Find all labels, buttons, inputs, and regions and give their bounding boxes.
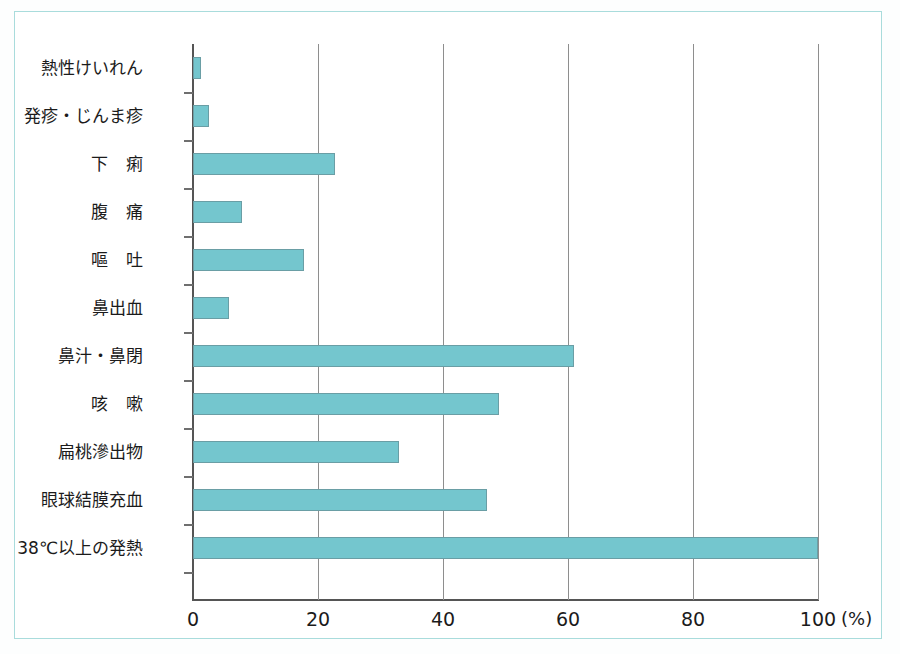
bar [193,57,201,79]
y-axis-tick [184,572,193,574]
category-label: 38℃以上の発熱 [0,524,143,572]
page-background: 熱性けいれん発疹・じんま疹下痢腹痛嘔吐鼻出血鼻汁・鼻閉咳嗽扁桃滲出物眼球結膜充血… [0,0,900,654]
category-label: 熱性けいれん [0,44,143,92]
y-axis-tick [184,188,193,190]
category-label: 発疹・じんま疹 [0,92,143,140]
y-axis-tick [184,236,193,238]
gridline-100 [818,44,819,600]
bar-row [193,284,818,332]
category-label: 咳嗽 [0,380,161,428]
bar-chart: 熱性けいれん発疹・じんま疹下痢腹痛嘔吐鼻出血鼻汁・鼻閉咳嗽扁桃滲出物眼球結膜充血… [15,12,881,638]
bar-row [193,428,818,476]
bar-row [193,476,818,524]
bar [193,441,399,463]
bar [193,489,487,511]
x-tick-label: 40 [431,608,455,630]
bar [193,393,499,415]
x-tick-label: 0 [187,608,199,630]
y-axis-tick [184,524,193,526]
y-axis-tick [184,140,193,142]
bar-row [193,332,818,380]
y-axis-tick [184,284,193,286]
figure-frame: 熱性けいれん発疹・じんま疹下痢腹痛嘔吐鼻出血鼻汁・鼻閉咳嗽扁桃滲出物眼球結膜充血… [14,11,882,639]
bar-row [193,44,818,92]
bar-row [193,236,818,284]
bar [193,105,209,127]
bar [193,201,242,223]
x-tick-label: 100 [800,608,836,630]
bar-row [193,380,818,428]
bar-row [193,524,818,572]
x-axis-unit-label: (%) [841,608,872,629]
bar-row [193,92,818,140]
y-axis-tick [184,476,193,478]
bar [193,297,229,319]
category-label: 腹痛 [0,188,161,236]
plot-area [193,44,818,600]
x-tick-label: 60 [556,608,580,630]
category-label: 眼球結膜充血 [0,476,143,524]
category-label: 下痢 [0,140,161,188]
x-tick-label: 20 [306,608,330,630]
category-label: 鼻出血 [0,284,143,332]
y-axis-tick [184,428,193,430]
bar [193,345,574,367]
y-axis-tick [184,92,193,94]
bar [193,153,335,175]
bar [193,249,304,271]
category-label: 鼻汁・鼻閉 [0,332,143,380]
bar-row [193,140,818,188]
y-axis-tick [184,380,193,382]
y-axis-tick [184,332,193,334]
x-tick-label: 80 [681,608,705,630]
bar [193,537,818,559]
bar-row [193,188,818,236]
category-label: 嘔吐 [0,236,161,284]
category-label: 扁桃滲出物 [0,428,143,476]
